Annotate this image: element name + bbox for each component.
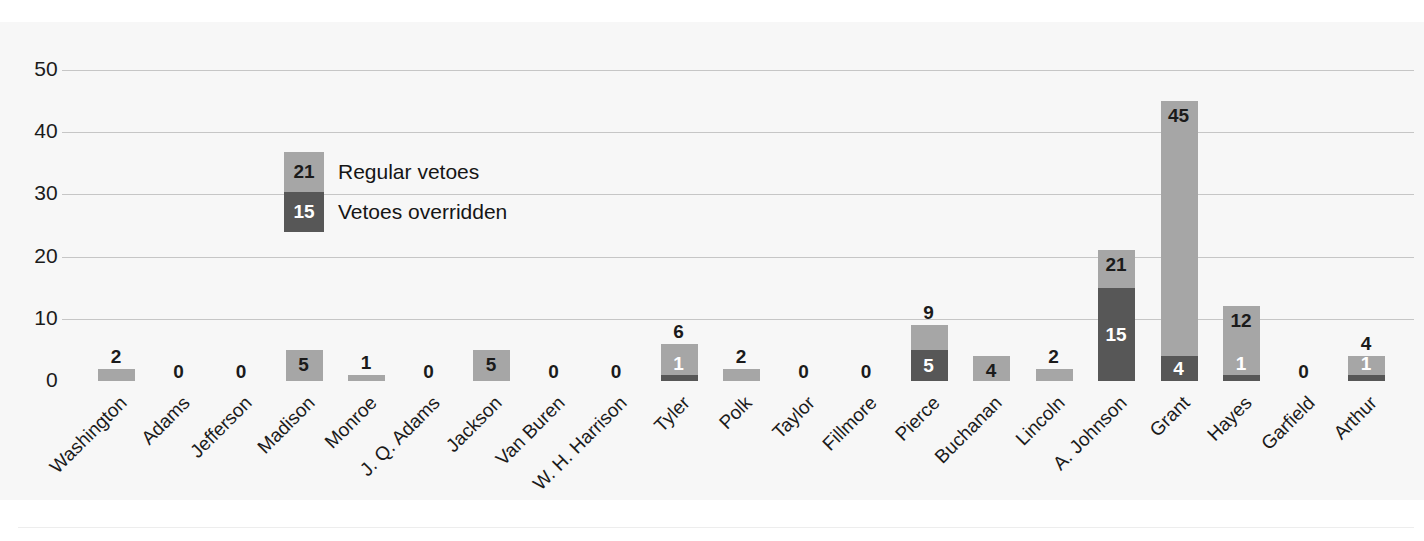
y-axis-tick-40: 40: [0, 119, 58, 143]
bar-stack: [98, 369, 135, 381]
legend-item-vetoes-overridden: 15 Vetoes overridden: [284, 192, 544, 232]
y-axis-tick-50: 50: [0, 57, 58, 81]
chart-figure: 010203040502Washington0Adams0Jefferson5M…: [0, 0, 1424, 541]
value-label-zero-2: 0: [210, 362, 272, 381]
plot-area: 010203040502Washington0Adams0Jefferson5M…: [0, 0, 1424, 541]
value-label-total-13: 9: [898, 303, 960, 322]
value-label-zero-19: 0: [1273, 362, 1335, 381]
value-label-override-18: 1: [1210, 354, 1272, 373]
value-label-override-17: 4: [1148, 359, 1210, 378]
gridline-20: [62, 257, 1414, 258]
chart-legend: 21 Regular vetoes 15 Vetoes overridden: [284, 152, 544, 232]
value-label-override-13: 5: [898, 356, 960, 375]
legend-swatch-regular: 21: [284, 152, 324, 192]
bar-segment-override: [661, 375, 698, 381]
legend-item-regular-vetoes: 21 Regular vetoes: [284, 152, 544, 192]
bar-segment-regular: [98, 369, 135, 381]
value-label-zero-1: 0: [148, 362, 210, 381]
value-label-total-9: 6: [648, 322, 710, 341]
value-label-override-16: 15: [1085, 325, 1147, 344]
bar-segment-regular: [1161, 101, 1198, 381]
value-label-zero-12: 0: [835, 362, 897, 381]
gridline-50: [62, 70, 1414, 71]
y-axis-tick-10: 10: [0, 306, 58, 330]
bar-segment-override: [1348, 375, 1385, 381]
value-label-zero-8: 0: [585, 362, 647, 381]
bar-stack: [348, 375, 385, 381]
legend-label-override: Vetoes overridden: [338, 192, 507, 232]
value-label-override-20: 1: [1335, 354, 1397, 373]
legend-swatch-override: 15: [284, 192, 324, 232]
y-axis-tick-30: 30: [0, 181, 58, 205]
bar-stack: [1161, 101, 1198, 381]
value-label-zero-5: 0: [398, 362, 460, 381]
value-label-total-18: 12: [1210, 311, 1272, 330]
bar-segment-override: [1223, 375, 1260, 381]
gridline-30: [62, 194, 1414, 195]
value-label-total-15: 2: [1023, 347, 1085, 366]
value-label-total-17: 45: [1148, 106, 1210, 125]
y-axis-tick-0: 0: [0, 368, 58, 392]
value-label-total-0: 2: [85, 347, 147, 366]
value-label-total-4: 1: [335, 353, 397, 372]
value-label-override-9: 1: [648, 354, 710, 373]
legend-label-regular: Regular vetoes: [338, 152, 479, 192]
bar-segment-regular: [723, 369, 760, 381]
bar-stack: [1036, 369, 1073, 381]
value-label-total-16: 21: [1085, 255, 1147, 274]
value-label-zero-7: 0: [523, 362, 585, 381]
value-label-total-14: 4: [960, 361, 1022, 380]
bar-segment-regular: [348, 375, 385, 381]
bar-stack: [723, 369, 760, 381]
y-axis-tick-20: 20: [0, 244, 58, 268]
value-label-total-10: 2: [710, 347, 772, 366]
value-label-total-6: 5: [460, 355, 522, 374]
value-label-total-3: 5: [273, 355, 335, 374]
gridline-40: [62, 132, 1414, 133]
value-label-total-20: 4: [1335, 334, 1397, 353]
bar-segment-regular: [1036, 369, 1073, 381]
value-label-zero-11: 0: [773, 362, 835, 381]
